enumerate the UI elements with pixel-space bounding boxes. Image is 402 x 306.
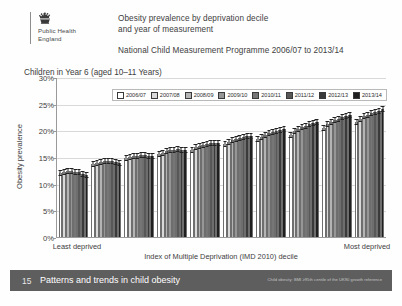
legend-swatch-icon	[319, 92, 326, 99]
error-bar	[269, 130, 270, 136]
bar-group-decile-10	[353, 78, 386, 237]
error-bar	[181, 147, 182, 153]
error-bar	[364, 113, 365, 119]
error-bar	[170, 147, 171, 153]
error-bar	[224, 141, 225, 147]
error-bar	[236, 136, 237, 142]
error-bar	[239, 135, 240, 141]
error-bar	[195, 144, 196, 150]
error-bar	[71, 168, 72, 174]
error-bar	[283, 126, 284, 132]
legend-label: 2008/09	[194, 92, 214, 98]
bar	[150, 156, 154, 237]
legend-label: 2011/12	[295, 92, 314, 98]
error-bar	[67, 168, 68, 174]
legend-item[interactable]: 2010/11	[252, 92, 280, 99]
footer-title: Patterns and trends in child obesity	[40, 275, 180, 285]
legend-label: 2006/07	[126, 92, 146, 98]
y-axis-tick-label: 30%	[28, 74, 54, 83]
error-bar	[166, 148, 167, 154]
error-bar	[97, 160, 98, 166]
x-axis-title: Index of Multiple Deprivation (IMD 2010)…	[56, 252, 386, 261]
error-bar	[137, 153, 138, 159]
legend-item[interactable]: 2008/09	[185, 92, 214, 99]
error-bar	[206, 141, 207, 147]
error-bar	[331, 119, 332, 125]
bar-group-decile-7	[254, 78, 287, 237]
error-bar	[356, 119, 357, 125]
error-bar	[305, 123, 306, 129]
error-bar	[133, 153, 134, 159]
error-bar	[119, 160, 120, 166]
error-bar	[218, 140, 219, 146]
legend-label: 2009/10	[227, 92, 247, 98]
error-bar	[185, 147, 186, 153]
error-bar	[251, 133, 252, 139]
error-bar	[257, 136, 258, 142]
obesity-prevalence-bar-chart: Obesity prevalence 0%5%10%15%20%25%30% 2…	[0, 78, 402, 264]
legend-item[interactable]: 2013/14	[353, 92, 382, 99]
error-bar	[309, 121, 310, 127]
error-bar	[199, 143, 200, 149]
x-axis-labels: Least deprived Index of Multiple Depriva…	[56, 241, 386, 265]
legend-item[interactable]: 2011/12	[286, 92, 314, 99]
error-bar	[75, 169, 76, 175]
error-bar	[276, 128, 277, 134]
error-bar	[342, 114, 343, 120]
legend-item[interactable]: 2007/08	[151, 92, 180, 99]
error-bar	[232, 137, 233, 143]
y-axis-tick-label: 20%	[28, 127, 54, 136]
y-axis-tick-label: 0%	[28, 234, 54, 243]
bar	[315, 122, 319, 237]
error-bar	[367, 112, 368, 118]
legend-item[interactable]: 2012/13	[319, 92, 348, 99]
error-bar	[210, 140, 211, 146]
axis-tickmark	[53, 238, 56, 239]
footer-source-note: Child obesity: BMI ≥95th centile of the …	[268, 277, 382, 282]
legend-label: 2010/11	[261, 92, 280, 98]
title-line-2: and year of measurement	[118, 24, 388, 35]
error-bar	[228, 139, 229, 145]
legend-item[interactable]: 2006/07	[117, 92, 146, 99]
legend-swatch-icon	[151, 92, 158, 99]
error-bar	[323, 125, 324, 131]
royal-crown-icon	[38, 12, 52, 24]
error-bar	[313, 120, 314, 126]
error-bar	[349, 112, 350, 118]
legend-swatch-icon	[185, 92, 192, 99]
error-bar	[177, 146, 178, 152]
report-title: Obesity prevalence by deprivation decile…	[118, 13, 388, 35]
bar-group-decile-3	[123, 78, 156, 237]
public-health-england-logo: Public Health England	[30, 12, 100, 44]
y-axis-tick-label: 15%	[28, 154, 54, 163]
error-bar	[294, 128, 295, 134]
document-page: Public Health England Obesity prevalence…	[0, 0, 402, 306]
error-bar	[375, 109, 376, 115]
error-bar	[327, 121, 328, 127]
bar-group-decile-5	[189, 78, 222, 237]
error-bar	[301, 124, 302, 130]
legend-swatch-icon	[218, 92, 225, 99]
legend-item[interactable]: 2009/10	[218, 92, 247, 99]
error-bar	[243, 134, 244, 140]
error-bar	[378, 108, 379, 114]
plot-area: 2006/072007/082008/092009/102010/112011/…	[56, 78, 386, 238]
error-bar	[192, 147, 193, 153]
x-label-most-deprived: Most deprived	[342, 242, 392, 252]
bar	[216, 143, 220, 237]
logo-text-line2: England	[38, 35, 100, 43]
error-bar	[298, 126, 299, 132]
legend-swatch-icon	[117, 92, 124, 99]
error-bar	[214, 140, 215, 146]
bar-group-decile-1	[57, 78, 90, 237]
error-bar	[261, 134, 262, 140]
error-bar	[152, 153, 153, 159]
logo-text-line1: Public Health	[38, 27, 100, 35]
chart-legend[interactable]: 2006/072007/082008/092009/102010/112011/…	[112, 89, 387, 101]
bar-group-decile-9	[320, 78, 353, 237]
bar	[85, 175, 89, 237]
y-axis-label: Obesity prevalence	[15, 102, 24, 212]
error-bar	[280, 127, 281, 133]
y-axis-tick-label: 25%	[28, 100, 54, 109]
x-axis-line	[56, 237, 386, 238]
